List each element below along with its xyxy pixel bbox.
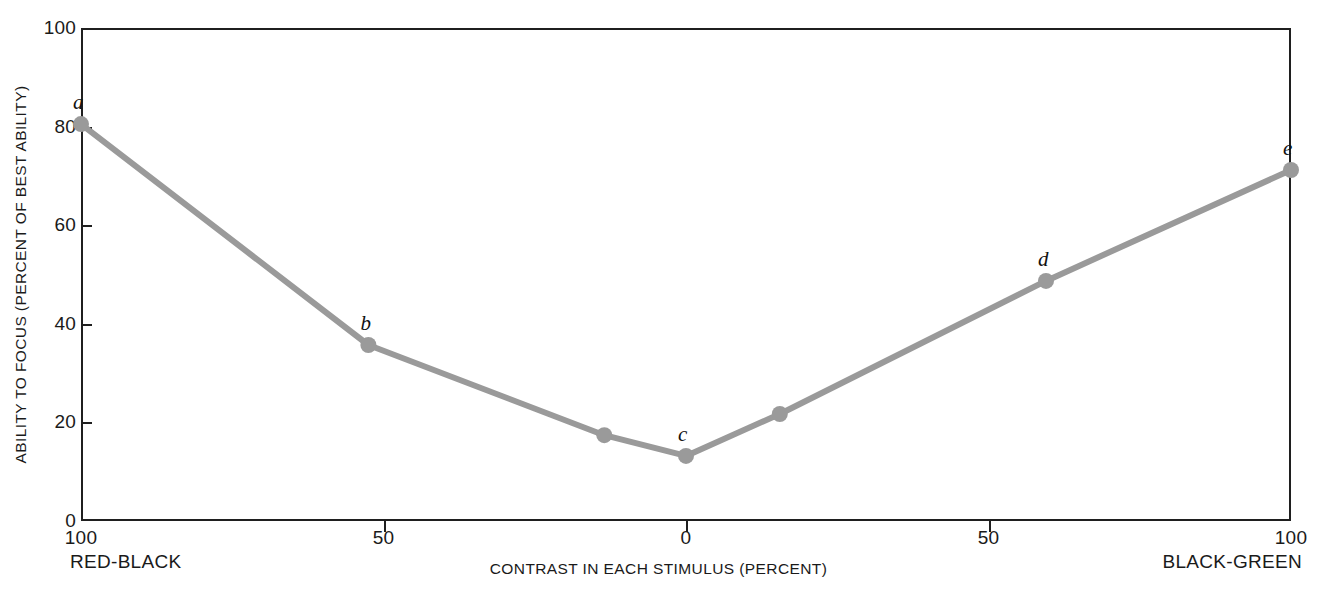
data-point-label: a: [73, 92, 84, 113]
y-tick-mark: [81, 422, 92, 424]
y-tick-mark: [81, 127, 92, 129]
chart-figure: ABILITY TO FOCUS (PERCENT OF BEST ABILIT…: [0, 0, 1317, 597]
y-tick-label: 20: [30, 412, 76, 431]
y-tick-mark: [81, 225, 92, 227]
y-tick-label: 80: [30, 117, 76, 136]
x-tick-label: 100: [36, 527, 126, 548]
y-tick-mark: [81, 324, 92, 326]
x-tick-label: 100: [1246, 527, 1317, 548]
x-tick-label: 0: [641, 527, 731, 548]
data-point-label: d: [1038, 249, 1049, 270]
data-point-label: b: [360, 313, 371, 334]
x-tick-label: 50: [944, 527, 1034, 548]
y-axis-ticks: 020406080100: [24, 0, 76, 597]
data-point-label: c: [678, 424, 687, 445]
y-tick-label: 40: [30, 314, 76, 333]
plot-frame: [81, 28, 1291, 521]
x-axis-title: CONTRAST IN EACH STIMULUS (PERCENT): [0, 560, 1317, 578]
data-point-label: e: [1283, 138, 1292, 159]
x-tick-label: 50: [339, 527, 429, 548]
y-tick-label: 60: [30, 215, 76, 234]
y-tick-label: 100: [30, 18, 76, 37]
